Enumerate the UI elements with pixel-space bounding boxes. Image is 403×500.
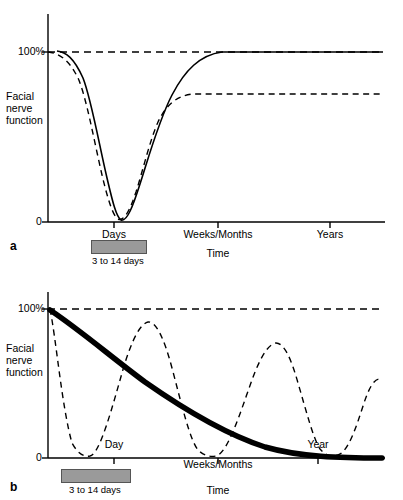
panel-b: 100% 0 Facial nerve function Day Weeks/M… [0, 258, 403, 500]
y-tick-label-0-b: 0 [36, 451, 42, 463]
panel-a-plot [0, 0, 403, 258]
panel-letter-b: b [10, 480, 17, 494]
x-axis-title-b: Time [178, 484, 258, 496]
complete-recovery-curve-a [57, 51, 383, 220]
x-tick-label-years-a: Years [300, 228, 360, 240]
x-tick-label-weeks-months-a: Weeks/Months [160, 228, 276, 240]
y-tick-label-0-a: 0 [36, 215, 42, 227]
duration-bar-b [61, 469, 131, 483]
x-tick-label-day-b: Day [86, 438, 142, 450]
x-tick-label-days-a: Days [84, 228, 144, 240]
y-axis-title-a: Facial nerve function [6, 90, 50, 126]
panel-a: 100% 0 Facial nerve function Days Weeks/… [0, 0, 403, 258]
panel-letter-a: a [10, 239, 17, 253]
y-axis-title-b: Facial nerve function [6, 342, 50, 378]
x-tick-label-weeks-months-b: Weeks/Months [160, 458, 276, 470]
y-tick-label-100-a: 100% [18, 45, 45, 57]
x-tick-label-year-b: Year [290, 438, 346, 450]
duration-bar-caption-b: 3 to 14 days [53, 484, 137, 495]
duration-bar-a [91, 240, 147, 254]
y-tick-label-100-b: 100% [18, 302, 45, 314]
fluctuating-function-curve-b [50, 309, 382, 456]
progressive-decline-curve-b [50, 310, 382, 458]
